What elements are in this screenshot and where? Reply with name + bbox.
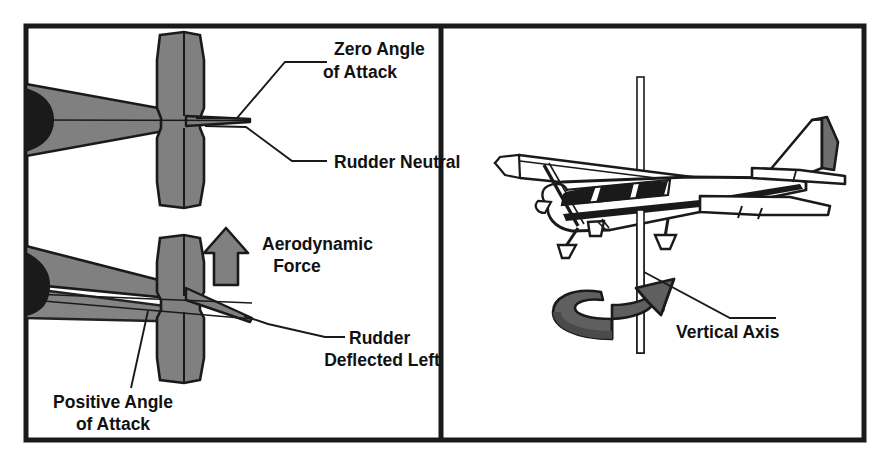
label-zero-angle-line1: Zero Angle [334,39,425,59]
label-positive-angle-line2: of Attack [76,414,150,434]
label-rudder-deflected-line1: Rudder [349,328,410,348]
label-zero-angle-line2: of Attack [323,62,397,82]
label-vertical-axis: Vertical Axis [676,322,780,342]
horizontal-stabilizer-lower [157,235,204,383]
vertical-axis-rod-front [637,210,644,353]
aviation-diagram-figure: Zero Angle of Attack Rudder Neutral Aero… [0,0,881,462]
chord-reference-line [34,120,250,121]
label-rudder-deflected-line2: Deflected Left [324,350,440,370]
label-rudder-neutral: Rudder Neutral [334,152,460,172]
label-positive-angle-line1: Positive Angle [53,392,173,412]
label-aerodynamic-force-line2: Force [273,256,321,276]
nose-gear-fairing [588,221,604,236]
label-aerodynamic-force-line1: Aerodynamic [262,234,373,254]
